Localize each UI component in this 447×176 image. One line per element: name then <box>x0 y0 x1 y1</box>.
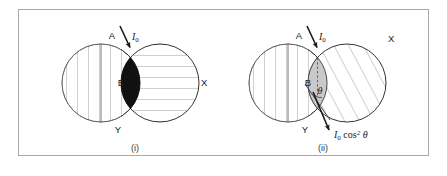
panel-i-incident-arrow <box>120 26 130 48</box>
panel-i-label-X: X <box>201 77 208 88</box>
panel-ii-label-A: A <box>296 30 303 41</box>
panel-i-group: A I0 B X Y (i) <box>62 26 208 153</box>
panel-ii-label-X: X <box>388 33 395 44</box>
panel-ii-label-B: B <box>305 77 311 88</box>
panel-ii-incident-arrow <box>307 26 317 48</box>
panel-ii-caption: (ii) <box>318 143 328 153</box>
panel-ii-label-Y: Y <box>302 124 309 135</box>
panel-ii-label-theta: θ <box>318 85 323 96</box>
panel-i-label-B: B <box>118 77 124 88</box>
figure-root: A I0 B X Y (i) <box>0 0 447 176</box>
panel-i-label-Y: Y <box>115 124 122 135</box>
panel-i-label-A: A <box>109 30 116 41</box>
panel-i-caption: (i) <box>131 143 139 153</box>
panel-ii-label-I0: I0 <box>318 31 326 44</box>
physics-diagram: A I0 B X Y (i) <box>0 0 447 176</box>
panel-ii-group: A I0 B X Y θ I0 cos2 θ (ii) <box>249 26 395 153</box>
panel-ii-label-output: I0 cos2 θ <box>333 129 368 142</box>
panel-i-label-I0: I0 <box>131 31 139 44</box>
